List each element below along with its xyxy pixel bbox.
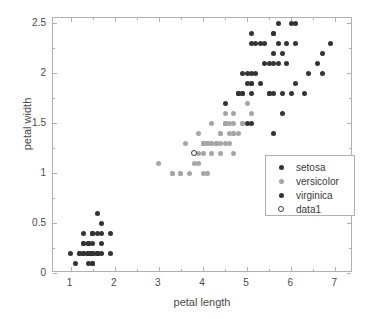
data-point-versicolor xyxy=(178,171,183,176)
y-tick-major xyxy=(53,23,57,24)
legend-marker-cell xyxy=(266,179,296,184)
data-point-virginica xyxy=(276,61,281,66)
y-tick-minor xyxy=(53,148,55,149)
x-axis-title: petal length xyxy=(52,296,352,308)
data-point-versicolor xyxy=(183,141,188,146)
x-tick-major-top xyxy=(71,18,72,22)
data-point-virginica xyxy=(302,91,307,96)
data-point-versicolor xyxy=(236,131,241,136)
data-point-versicolor xyxy=(209,151,214,156)
y-tick-minor xyxy=(53,198,55,199)
data-point-versicolor xyxy=(227,131,232,136)
x-tick-minor xyxy=(93,269,94,271)
data-point-versicolor xyxy=(205,171,210,176)
data-point-versicolor xyxy=(227,141,232,146)
data-point-setosa xyxy=(95,251,100,256)
data-point-virginica xyxy=(320,71,325,76)
legend[interactable]: setosaversicolorvirginicadata1 xyxy=(265,155,355,216)
y-tick-label: 1 xyxy=(12,167,46,178)
data-point-setosa xyxy=(90,261,95,266)
data-point-setosa xyxy=(90,241,95,246)
data-point-versicolor xyxy=(196,161,201,166)
x-tick-major-top xyxy=(335,18,336,22)
legend-label: data1 xyxy=(296,204,321,215)
legend-item-virginica[interactable]: virginica xyxy=(266,188,354,202)
y-tick-major-right xyxy=(347,273,351,274)
data-point-virginica xyxy=(280,91,285,96)
data-point-setosa xyxy=(99,231,104,236)
data-point-virginica xyxy=(320,51,325,56)
y-tick-minor xyxy=(53,248,55,249)
y-tick-major xyxy=(53,173,57,174)
data-point-versicolor xyxy=(218,141,223,146)
legend-marker-data1-icon xyxy=(278,206,284,212)
y-tick-label: 0 xyxy=(12,267,46,278)
data-point-virginica xyxy=(271,131,276,136)
data-point-versicolor xyxy=(218,151,223,156)
data-point-virginica xyxy=(289,91,294,96)
x-tick-major xyxy=(115,267,116,271)
data-point-virginica xyxy=(293,41,298,46)
data-point-setosa xyxy=(86,251,91,256)
data-point-setosa xyxy=(95,211,100,216)
data-point-setosa xyxy=(99,221,104,226)
data-point-setosa xyxy=(81,231,86,236)
y-tick-minor-right xyxy=(349,98,351,99)
data-point-setosa xyxy=(73,261,78,266)
data-point-versicolor xyxy=(245,101,250,106)
data-point-versicolor xyxy=(249,111,254,116)
y-tick-label: 2 xyxy=(12,67,46,78)
legend-item-setosa[interactable]: setosa xyxy=(266,160,354,174)
data-point-virginica xyxy=(240,71,245,76)
x-tick-label: 7 xyxy=(332,277,338,288)
data-point-virginica xyxy=(284,61,289,66)
data-point-versicolor xyxy=(156,161,161,166)
x-tick-major xyxy=(291,267,292,271)
data-point-versicolor xyxy=(231,111,236,116)
y-tick-major xyxy=(53,123,57,124)
data-point-virginica xyxy=(276,41,281,46)
legend-label: setosa xyxy=(296,162,325,173)
y-tick-minor xyxy=(53,98,55,99)
legend-label: virginica xyxy=(296,190,333,201)
data-point-virginica xyxy=(245,81,250,86)
data-point-virginica xyxy=(271,91,276,96)
data-point-virginica xyxy=(293,21,298,26)
legend-item-versicolor[interactable]: versicolor xyxy=(266,174,354,188)
data-point-virginica xyxy=(253,71,258,76)
data-point-virginica xyxy=(249,31,254,36)
data-point-virginica xyxy=(276,21,281,26)
y-tick-major-right xyxy=(347,223,351,224)
data-point-versicolor xyxy=(223,121,228,126)
data-point-versicolor xyxy=(223,111,228,116)
data-point-setosa xyxy=(99,251,104,256)
x-tick-minor xyxy=(269,269,270,271)
data-point-virginica xyxy=(258,81,263,86)
x-tick-major-top xyxy=(115,18,116,22)
data-point-virginica xyxy=(284,41,289,46)
y-tick-major xyxy=(53,73,57,74)
data-point-virginica xyxy=(262,41,267,46)
data-point-virginica xyxy=(236,91,241,96)
legend-marker-setosa-icon xyxy=(279,165,284,170)
data-point-virginica xyxy=(262,61,267,66)
legend-marker-cell xyxy=(266,206,296,212)
x-tick-major xyxy=(159,267,160,271)
x-tick-major xyxy=(335,267,336,271)
x-tick-major xyxy=(247,267,248,271)
x-tick-label: 5 xyxy=(243,277,249,288)
y-tick-major xyxy=(53,223,57,224)
data-point-virginica xyxy=(293,81,298,86)
legend-marker-cell xyxy=(266,193,296,198)
data-point-virginica xyxy=(328,41,333,46)
y-tick-major-right xyxy=(347,23,351,24)
data-point-virginica xyxy=(280,51,285,56)
legend-item-data1[interactable]: data1 xyxy=(266,202,354,216)
data-point-virginica xyxy=(280,111,285,116)
data-point-versicolor xyxy=(205,141,210,146)
data-point-virginica xyxy=(271,61,276,66)
data-point-virginica xyxy=(306,71,311,76)
x-tick-minor-top xyxy=(181,18,182,20)
data-point-versicolor xyxy=(231,151,236,156)
data-point-virginica xyxy=(271,51,276,56)
